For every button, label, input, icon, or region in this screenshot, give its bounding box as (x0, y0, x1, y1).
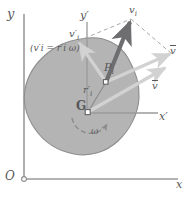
particle-label-sub: i (111, 67, 114, 76)
particle-marker (103, 80, 108, 85)
vbar-overline-inner (152, 80, 158, 81)
vbar-overline-outer (170, 45, 176, 46)
vbar-base-inner: v (152, 80, 158, 91)
dashed-edge-vi-to-vbar (131, 19, 172, 54)
absolute-velocity-sub: i (135, 9, 137, 18)
vbar-base-outer: v (170, 45, 176, 56)
rigid-body-shape (24, 38, 139, 155)
relative-velocity-label: v′i (69, 29, 79, 41)
origin-label: O (5, 170, 15, 182)
vector-diagram-svg (0, 0, 191, 197)
absolute-velocity-label: vi (129, 5, 137, 17)
global-x-axis-label: x (176, 179, 182, 190)
relative-speed-equation: (v′i = r′i ω) (30, 44, 80, 53)
origin-marker (22, 177, 27, 182)
mass-center-velocity-label-outer: v (170, 46, 176, 56)
position-vector-sub: i (90, 89, 92, 98)
position-vector-base: r (83, 84, 88, 95)
angular-velocity-label: ω (91, 127, 98, 136)
global-y-axis-label: y (7, 7, 14, 20)
relative-velocity-sub: i (77, 33, 79, 42)
position-vector-label: r′i (83, 85, 92, 97)
relative-velocity-base: v (69, 28, 75, 39)
mass-center-label: G (76, 100, 86, 112)
mass-center-velocity-label-inner: v (152, 81, 158, 91)
figure-container: y O x y′ x′ vi v′i (v′i = r′i ω) v v Pi … (0, 0, 191, 197)
local-x-axis-label: x′ (159, 111, 168, 122)
particle-label: Pi (104, 62, 114, 76)
local-y-axis-label: y′ (80, 10, 89, 21)
